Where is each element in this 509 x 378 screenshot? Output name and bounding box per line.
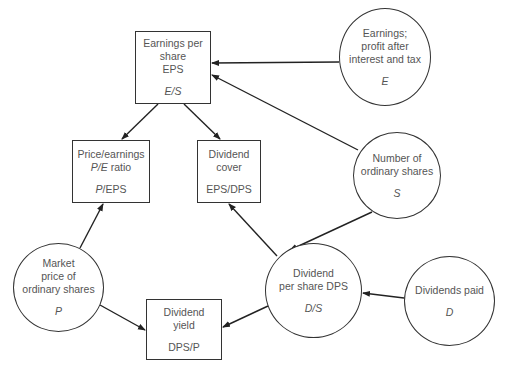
cover-label-line2: cover (216, 161, 242, 174)
cover-label-line1: Dividend (209, 148, 250, 161)
node-earnings-per-share: Earnings per share EPS E/S (135, 31, 211, 104)
price-label-line2: price of (41, 270, 75, 283)
edge-dps-to-cover (229, 204, 277, 256)
edge-eps-to-cover (184, 104, 220, 139)
shares-symbol: S (393, 187, 400, 200)
edge-price-to-yield (100, 305, 145, 330)
earnings-label-line1: Earnings; (363, 27, 407, 40)
price-label-line1: Market (42, 257, 74, 270)
eps-label-line2: share (160, 50, 186, 63)
node-dividend-per-share: Dividend per share DPS D/S (265, 243, 362, 338)
edge-price-to-pe (80, 204, 103, 248)
eps-label-line3: EPS (162, 63, 183, 76)
yield-label-line1: Dividend (164, 306, 205, 319)
shares-label-line1: Number of (372, 152, 421, 165)
shares-label-line2: ordinary shares (361, 165, 433, 178)
edge-dps-to-yield (223, 306, 268, 327)
earnings-label-line3: interest and tax (349, 53, 421, 66)
price-label-line3: ordinary shares (22, 283, 94, 296)
dps-symbol: D/S (305, 302, 323, 315)
pe-rest: ratio (108, 161, 131, 173)
eps-label-line1: Earnings per (143, 37, 203, 50)
node-dividends-paid: Dividends paid D (404, 256, 495, 346)
pe-formula: P/EPS (96, 183, 127, 196)
pe-formula-italic: P (96, 183, 103, 195)
pe-label-line2: P/E ratio (91, 161, 131, 174)
dps-label-line1: Dividend (293, 267, 334, 280)
cover-formula: EPS/DPS (206, 183, 252, 196)
price-symbol: P (55, 305, 62, 318)
pe-label-line1: Price/earnings (77, 148, 144, 161)
earnings-label-line2: profit after (361, 40, 408, 53)
earnings-symbol: E (381, 75, 388, 88)
edge-shares-to-eps (212, 75, 358, 150)
eps-formula: E/S (165, 85, 182, 98)
node-number-of-shares: Number of ordinary shares S (353, 132, 441, 219)
edge-dividends-to-dps (363, 293, 404, 298)
dividends-symbol: D (446, 306, 454, 319)
edge-eps-to-pe (122, 104, 158, 139)
node-price-earnings-ratio: Price/earnings P/E ratio P/EPS (72, 140, 150, 203)
dividends-label-line1: Dividends paid (415, 284, 484, 297)
node-dividend-yield: Dividend yield DPS/P (146, 299, 222, 360)
yield-formula: DPS/P (168, 341, 200, 354)
pe-italic: P/E (91, 161, 108, 173)
node-market-price: Market price of ordinary shares P (13, 243, 104, 332)
yield-label-line2: yield (173, 319, 195, 332)
dps-label-line2: per share DPS (279, 280, 348, 293)
pe-formula-rest: /EPS (103, 183, 127, 195)
edge-earnings-to-eps (212, 62, 339, 63)
node-dividend-cover: Dividend cover EPS/DPS (197, 140, 261, 203)
node-earnings: Earnings; profit after interest and tax … (339, 8, 431, 106)
